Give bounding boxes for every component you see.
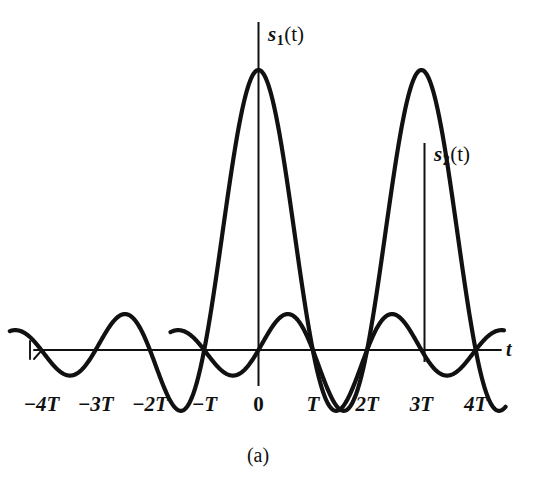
x-tick-label-8: 4T <box>464 392 487 417</box>
signal-label-s1-subscript: 1 <box>276 33 284 48</box>
x-tick-label-7: 3T <box>410 392 433 417</box>
signal-label-s1: s1(t) <box>268 22 304 49</box>
signal-label-s2: s2(t) <box>434 142 470 169</box>
signal-label-s2-arg: (t) <box>450 142 470 166</box>
x-tick-label-3: −T <box>191 392 217 417</box>
axis-label-t: t <box>506 338 512 361</box>
x-tick-label-0: −4T <box>23 392 59 417</box>
figure-panel: s1(t) s2(t) t −4T−3T−2T−T0T2T3T4T (a) <box>0 0 545 486</box>
x-tick-label-5: T <box>306 392 319 417</box>
signal-label-s2-base: s <box>434 142 442 166</box>
figure-caption: (a) <box>247 444 269 467</box>
signal-label-s2-subscript: 2 <box>442 153 450 168</box>
signal-label-s1-arg: (t) <box>284 22 304 46</box>
x-tick-label-4: 0 <box>253 392 264 417</box>
x-tick-label-6: 2T <box>355 392 378 417</box>
signal-label-s1-base: s <box>268 22 276 46</box>
x-tick-label-1: −3T <box>78 392 114 417</box>
x-tick-label-2: −2T <box>132 392 168 417</box>
curve-s1 <box>10 70 504 411</box>
